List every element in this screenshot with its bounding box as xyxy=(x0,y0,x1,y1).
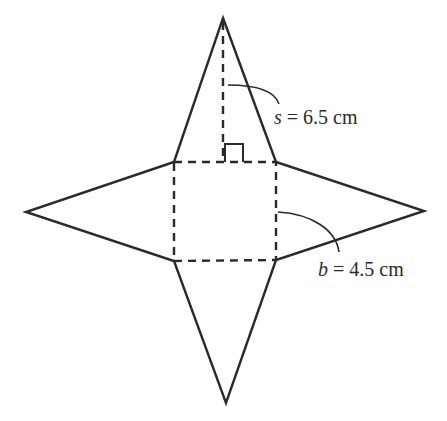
b-value: 4.5 cm xyxy=(349,258,404,280)
s-variable: s xyxy=(274,106,282,128)
square-base xyxy=(174,162,276,261)
base-edge-label: b = 4.5 cm xyxy=(318,258,404,280)
net-outline xyxy=(26,18,424,403)
b-equals: = xyxy=(328,258,349,280)
pyramid-net-diagram: s = 6.5 cm b = 4.5 cm xyxy=(0,0,447,421)
s-value: 6.5 cm xyxy=(303,106,358,128)
b-variable: b xyxy=(318,258,328,280)
b-leader-line xyxy=(278,212,339,252)
s-equals: = xyxy=(282,106,303,128)
slant-height-label: s = 6.5 cm xyxy=(274,106,358,128)
right-angle-marker xyxy=(225,144,243,162)
